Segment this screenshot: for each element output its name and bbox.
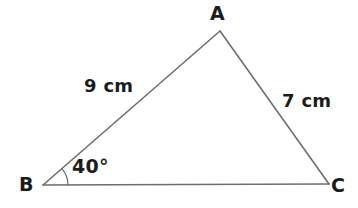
triangle-side-ab <box>43 31 220 185</box>
side-length-label-ab: 9 cm <box>84 77 133 95</box>
vertex-label-c: C <box>331 176 345 195</box>
triangle-side-bc <box>43 184 329 185</box>
side-length-label-ac: 7 cm <box>282 92 331 110</box>
geometry-figure: A B C 9 cm 7 cm 40° <box>0 0 358 208</box>
vertex-label-b: B <box>19 175 34 194</box>
angle-arc-at-b <box>62 169 68 185</box>
vertex-label-a: A <box>210 4 225 23</box>
angle-measure-label-b: 40° <box>72 157 109 176</box>
